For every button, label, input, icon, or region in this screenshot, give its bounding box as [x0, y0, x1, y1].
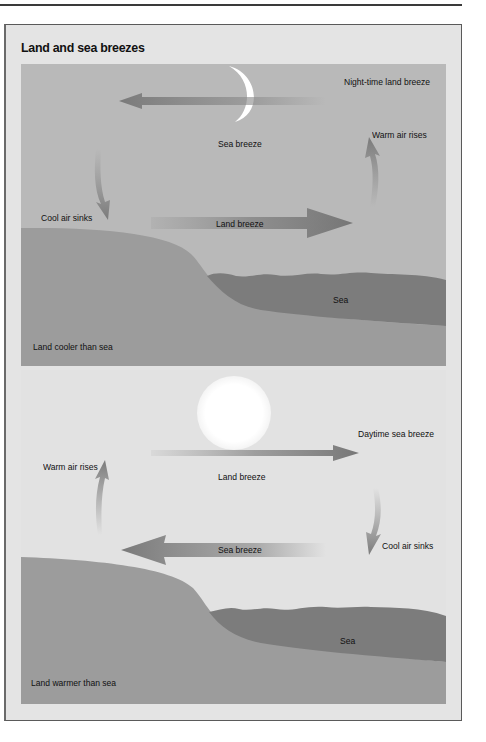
night-cool-air-label: Cool air sinks	[41, 212, 92, 223]
night-warm-air-label: Warm air rises	[372, 129, 427, 140]
land-breeze-arrow	[151, 445, 359, 461]
night-land-label: Land cooler than sea	[33, 341, 113, 352]
top-rule	[0, 4, 462, 6]
day-cool-air-label: Cool air sinks	[382, 540, 433, 551]
day-caption: Daytime sea breeze	[358, 428, 434, 439]
day-sea-breeze-label: Sea breeze	[218, 544, 262, 555]
day-land-label: Land warmer than sea	[31, 677, 116, 688]
day-warm-air-label: Warm air rises	[43, 461, 98, 472]
day-land-breeze-label: Land breeze	[218, 471, 266, 482]
night-land-breeze-label: Land breeze	[216, 218, 264, 229]
sea-breeze-arrow	[119, 93, 326, 109]
night-caption: Night-time land breeze	[344, 76, 430, 87]
night-sea-breeze-label: Sea breeze	[218, 138, 262, 149]
day-sea-label: Sea	[340, 635, 355, 646]
figure-title: Land and sea breezes	[21, 40, 145, 55]
crescent-moon-icon	[229, 66, 254, 122]
cool-air-sinks-arrow	[366, 488, 381, 555]
night-panel: Night-time land breeze Sea breeze Warm a…	[21, 64, 446, 366]
warm-air-rises-arrow	[365, 137, 380, 207]
night-sea-label: Sea	[333, 294, 348, 305]
day-panel: Daytime sea breeze Warm air rises Land b…	[21, 370, 446, 704]
day-diagram	[21, 370, 446, 704]
cool-air-sinks-arrow	[95, 149, 110, 220]
